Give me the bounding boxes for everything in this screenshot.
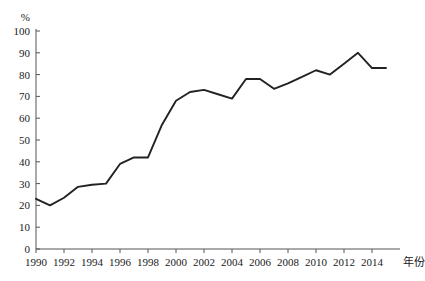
- chart-canvas: 0102030405060708090100%19901992199419961…: [0, 0, 425, 281]
- x-tick-label: 2000: [165, 256, 188, 268]
- y-tick-label: 0: [25, 243, 31, 255]
- y-tick-label: 50: [19, 134, 31, 146]
- x-tick-label: 2002: [193, 256, 215, 268]
- line-chart: 0102030405060708090100%19901992199419961…: [0, 0, 425, 281]
- x-tick-label: 2004: [221, 256, 244, 268]
- x-tick-label: 2012: [333, 256, 355, 268]
- y-tick-label: 20: [19, 199, 31, 211]
- x-tick-label: 1994: [81, 256, 104, 268]
- x-axis-name-label: 年份: [403, 255, 425, 268]
- y-tick-label: 40: [19, 156, 31, 168]
- y-tick-label: 80: [19, 69, 31, 81]
- y-tick-label: 10: [19, 221, 31, 233]
- y-axis-unit-label: %: [21, 11, 30, 23]
- x-tick-label: 1992: [53, 256, 75, 268]
- y-tick-label: 100: [14, 25, 31, 37]
- x-tick-label: 2008: [277, 256, 300, 268]
- y-tick-label: 70: [19, 90, 31, 102]
- x-tick-label: 1990: [25, 256, 48, 268]
- y-tick-label: 30: [19, 178, 31, 190]
- x-tick-label: 1998: [137, 256, 160, 268]
- x-tick-label: 1996: [109, 256, 132, 268]
- x-tick-label: 2014: [361, 256, 384, 268]
- data-series-line: [36, 53, 386, 206]
- x-tick-label: 2006: [249, 256, 272, 268]
- x-tick-label: 2010: [305, 256, 328, 268]
- y-tick-label: 60: [19, 112, 31, 124]
- y-tick-label: 90: [19, 47, 31, 59]
